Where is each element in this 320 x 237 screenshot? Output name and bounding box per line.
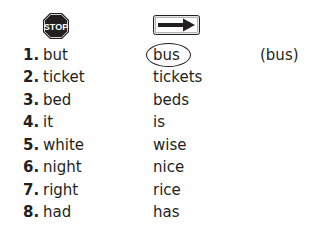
word: bed [43,90,71,110]
item-number: 4. [23,112,39,132]
word: but [43,45,68,65]
pair-word[interactable]: tickets [153,67,202,87]
item-number: 1. [23,45,39,65]
pair-word[interactable]: wise [153,135,186,155]
stop-sign-icon: STOP [42,12,70,40]
item-number: 3. [23,90,39,110]
word: white [43,135,84,155]
pair-word[interactable]: is [153,112,165,132]
svg-text:STOP: STOP [44,22,68,32]
right-arrow-sign-icon [153,15,200,35]
word: right [43,180,78,200]
pair-word[interactable]: bus [153,45,180,65]
word: had [43,202,71,222]
pair-word[interactable]: has [153,202,180,222]
item-number: 8. [23,202,39,222]
pair-word[interactable]: rice [153,180,181,200]
word: night [43,157,82,177]
pair-word[interactable]: nice [153,157,184,177]
word: it [43,112,53,132]
item-number: 7. [23,180,39,200]
item-number: 5. [23,135,39,155]
item-number: 6. [23,157,39,177]
pair-word[interactable]: beds [153,90,189,110]
item-number: 2. [23,67,39,87]
word: ticket [43,67,85,87]
example-answer: (bus) [260,45,299,65]
